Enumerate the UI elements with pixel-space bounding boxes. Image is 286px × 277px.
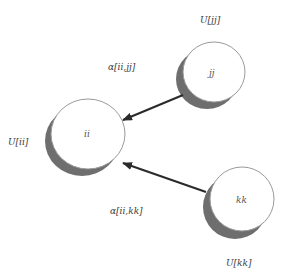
node-ii[interactable]: ii (45, 99, 125, 176)
node-kk[interactable]: kk (203, 167, 274, 239)
node-jj[interactable]: jj (176, 42, 245, 109)
node-ii-label: ii (84, 129, 90, 139)
node-kk-label: kk (236, 195, 247, 205)
utility-label-kk: U[kk] (226, 258, 252, 268)
utility-label-jj: U[jj] (200, 15, 221, 25)
edge-label-ii-kk: α[ii,kk] (110, 206, 143, 216)
utility-label-ii: U[ii] (8, 137, 29, 147)
edge-jj-to-ii (123, 95, 183, 120)
node-jj-label: jj (207, 68, 215, 78)
edge-kk-to-ii (123, 163, 206, 192)
edge-label-ii-jj: α[ii,jj] (108, 62, 136, 72)
influence-diagram: ii jj kk U[jj] α[ii,jj] U[ii] α[ii,kk] U… (0, 0, 286, 277)
